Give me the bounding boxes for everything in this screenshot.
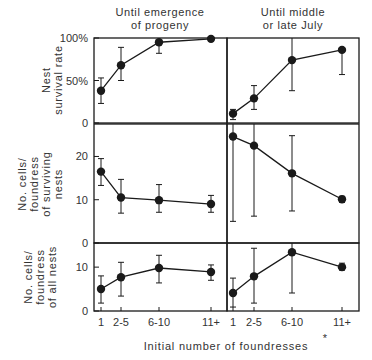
x-category-label: 11+ [333, 316, 351, 328]
data-point [155, 38, 163, 46]
data-point [250, 141, 258, 149]
data-point [288, 169, 296, 177]
x-category-label: 1 [98, 316, 104, 328]
chart-canvas: Until emergence of progeny Until middle … [0, 0, 372, 360]
panel-r2-c0: 010 [76, 243, 227, 317]
data-point [207, 35, 215, 43]
row-label-line: Nest [40, 67, 52, 93]
data-point [288, 56, 296, 64]
column-title-2-line1: Until middle [261, 6, 326, 18]
column-title-1-line1: Until emergence [115, 6, 204, 18]
plot-panels: 050%100%01020010 [60, 32, 359, 317]
row-label-line: foundress [28, 156, 40, 212]
x-axis-label: Initial number of foundresses [144, 340, 308, 352]
y-tick-label: 10 [76, 261, 88, 273]
y-tick-label: 100% [60, 32, 88, 44]
panel-frame [94, 124, 227, 243]
panel-r0-c0: 050%100% [60, 32, 227, 129]
row-label-line: of all nests [46, 246, 58, 308]
x-category-label: 6-10 [281, 316, 303, 328]
y-tick-label: 10 [76, 194, 88, 206]
y-tick-label: 50% [66, 75, 88, 87]
data-point [97, 87, 105, 95]
row-label-line: of surviving [40, 151, 52, 216]
data-point [207, 200, 215, 208]
data-point [117, 193, 125, 201]
data-point [229, 109, 237, 117]
data-point [338, 46, 346, 54]
data-point [117, 273, 125, 281]
y-tick-label: 20 [76, 150, 88, 162]
data-point [250, 94, 258, 102]
data-point [207, 268, 215, 276]
x-tick-labels: 12-56-1011+12-56-1011+ [98, 316, 351, 328]
panel-r1-c0: 01020 [76, 124, 227, 249]
y-tick-label: 0 [82, 305, 88, 317]
y-tick-label: 0 [82, 237, 88, 249]
column-title-2-line2: or late July [263, 19, 323, 31]
data-point [250, 272, 258, 280]
data-point [229, 289, 237, 297]
data-point [155, 196, 163, 204]
panel-r1-c1 [227, 124, 359, 243]
data-point [97, 167, 105, 175]
column-title-1-line2: of progeny [131, 19, 189, 31]
data-point [155, 264, 163, 272]
x-category-label: 2-5 [246, 316, 262, 328]
data-point [117, 61, 125, 69]
x-category-label: 6-10 [148, 316, 170, 328]
panel-frame [94, 243, 227, 311]
x-category-label: 1 [230, 316, 236, 328]
row-label-line: foundress [34, 249, 46, 305]
panel-r0-c1 [227, 38, 359, 123]
row-label-line: No. cells/ [16, 157, 28, 210]
row-label-line: No. cells/ [22, 250, 34, 303]
row-labels: Nestsurvival rateNo. cells/foundressof s… [16, 45, 64, 308]
panel-r2-c1 [227, 243, 359, 311]
data-point [338, 195, 346, 203]
row-label-line: nests [52, 169, 64, 199]
series-line [233, 137, 342, 200]
footnote-mark: * [323, 332, 328, 344]
series-line [233, 50, 342, 114]
x-category-label: 11+ [202, 316, 220, 328]
x-category-label: 2-5 [113, 316, 129, 328]
data-point [97, 285, 105, 293]
data-point [229, 132, 237, 140]
series-line [233, 252, 342, 293]
data-point [288, 248, 296, 256]
row-label-line: survival rate [52, 45, 64, 115]
panel-frame [94, 38, 227, 123]
y-tick-label: 0 [82, 117, 88, 129]
figure: Until emergence of progeny Until middle … [0, 0, 372, 360]
data-point [338, 263, 346, 271]
